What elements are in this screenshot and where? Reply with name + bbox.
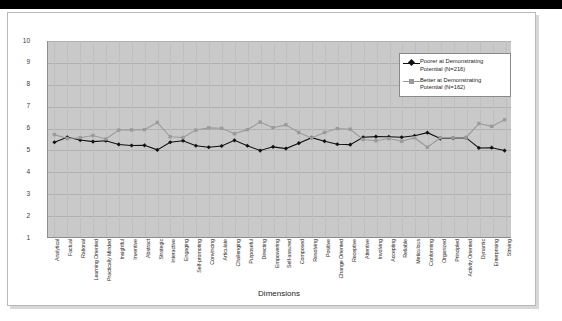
legend-label-poorer: Poorer at Demonstrating Potential (N=216… xyxy=(420,58,483,74)
data-point[interactable] xyxy=(271,145,275,149)
data-point[interactable] xyxy=(310,136,313,139)
x-tick-label-9: Interactive xyxy=(171,239,176,263)
data-point[interactable] xyxy=(232,138,236,142)
data-point[interactable] xyxy=(53,133,56,136)
data-point[interactable] xyxy=(78,136,81,139)
data-point[interactable] xyxy=(271,126,274,129)
y-tick-label-4: 4 xyxy=(8,169,30,176)
data-point[interactable] xyxy=(194,144,198,148)
x-tick-label-23: Receptive xyxy=(352,239,357,262)
screenshot-root: 12345678910 Poorer at Demonstrating xyxy=(0,0,562,321)
data-point[interactable] xyxy=(91,134,94,137)
data-point[interactable] xyxy=(142,143,146,147)
x-tick-label-5: Insightful xyxy=(120,239,125,260)
data-point[interactable] xyxy=(387,137,390,140)
x-tick-label-19: Composed xyxy=(300,239,305,264)
data-point[interactable] xyxy=(400,139,403,142)
y-tick-label-10: 10 xyxy=(8,38,30,45)
data-point[interactable] xyxy=(451,136,454,139)
data-point[interactable] xyxy=(490,146,494,150)
data-point[interactable] xyxy=(374,139,377,142)
legend-item-better[interactable]: Better at Demonstrating Potential (N=162… xyxy=(403,77,506,93)
x-tick-label-25: Involving xyxy=(378,239,383,259)
y-tick-label-6: 6 xyxy=(8,125,30,132)
data-point[interactable] xyxy=(297,141,301,145)
data-point[interactable] xyxy=(413,136,416,139)
x-tick-label-14: Challenging xyxy=(236,239,241,266)
data-point[interactable] xyxy=(259,120,262,123)
data-point[interactable] xyxy=(336,127,339,130)
data-point[interactable] xyxy=(130,128,133,131)
data-point[interactable] xyxy=(117,128,120,131)
data-point[interactable] xyxy=(477,122,480,125)
y-tick-label-7: 7 xyxy=(8,103,30,110)
data-point[interactable] xyxy=(439,136,442,139)
data-point[interactable] xyxy=(66,137,69,140)
data-point[interactable] xyxy=(181,136,184,139)
data-point[interactable] xyxy=(349,128,352,131)
data-point[interactable] xyxy=(143,128,146,131)
data-point[interactable] xyxy=(503,118,506,121)
data-point[interactable] xyxy=(52,140,56,144)
data-point[interactable] xyxy=(104,137,107,140)
data-point[interactable] xyxy=(245,144,249,148)
x-tick-label-30: Organized xyxy=(442,239,447,263)
legend-marker-diamond-icon xyxy=(403,59,420,67)
x-axis-title: Dimensions xyxy=(47,289,511,298)
data-point[interactable] xyxy=(284,146,288,150)
x-tick-label-10: Engaging xyxy=(184,239,189,261)
x-tick-label-6: Inventive xyxy=(133,239,138,260)
data-point[interactable] xyxy=(207,126,210,129)
chart-legend[interactable]: Poorer at Demonstrating Potential (N=216… xyxy=(399,53,511,97)
data-point[interactable] xyxy=(335,142,339,146)
x-tick-label-3: Learning Oriented xyxy=(94,239,99,280)
data-point[interactable] xyxy=(207,145,211,149)
y-tick-label-2: 2 xyxy=(8,213,30,220)
data-point[interactable] xyxy=(156,121,159,124)
x-tick-label-32: Activity Oriented xyxy=(468,239,473,277)
data-point[interactable] xyxy=(246,128,249,131)
data-point[interactable] xyxy=(400,135,404,139)
data-point[interactable] xyxy=(323,131,326,134)
x-tick-label-2: Rational xyxy=(81,239,86,258)
document-sheet: 12345678910 Poorer at Demonstrating xyxy=(7,12,536,306)
data-point[interactable] xyxy=(220,144,224,148)
sheet-shadow-right xyxy=(536,15,539,307)
data-point[interactable] xyxy=(374,135,378,139)
legend-marker-square-icon xyxy=(403,78,420,86)
x-tick-label-27: Reliable xyxy=(403,239,408,258)
data-point[interactable] xyxy=(220,127,223,130)
data-point[interactable] xyxy=(322,139,326,143)
data-point[interactable] xyxy=(168,135,171,138)
data-point[interactable] xyxy=(297,131,300,134)
x-axis-labels: AnalyticalFactualRationalLearning Orient… xyxy=(47,239,511,295)
x-tick-label-24: Attentive xyxy=(365,239,370,259)
data-point[interactable] xyxy=(91,140,95,144)
data-point[interactable] xyxy=(181,139,185,143)
data-point[interactable] xyxy=(426,146,429,149)
x-tick-label-28: Meticulous xyxy=(416,239,421,264)
top-black-band xyxy=(0,0,562,9)
data-point[interactable] xyxy=(194,128,197,131)
legend-item-poorer[interactable]: Poorer at Demonstrating Potential (N=216… xyxy=(403,58,506,74)
data-point[interactable] xyxy=(258,148,262,152)
x-tick-label-15: Purposeful xyxy=(249,239,254,264)
data-point[interactable] xyxy=(464,136,467,139)
data-point[interactable] xyxy=(490,125,493,128)
data-point[interactable] xyxy=(502,148,506,152)
x-tick-label-0: Analytical xyxy=(55,239,60,261)
x-tick-label-34: Enterprising xyxy=(494,239,499,267)
data-point[interactable] xyxy=(284,123,287,126)
series-line-1 xyxy=(54,120,504,147)
data-point[interactable] xyxy=(130,143,134,147)
x-tick-label-7: Abstract xyxy=(146,239,151,258)
y-tick-label-9: 9 xyxy=(8,59,30,66)
x-tick-label-18: Self-assured xyxy=(287,239,292,268)
x-tick-label-20: Resolving xyxy=(313,239,318,262)
data-point[interactable] xyxy=(425,131,429,135)
data-point[interactable] xyxy=(233,132,236,135)
x-tick-label-21: Positive xyxy=(326,239,331,257)
data-point[interactable] xyxy=(117,142,121,146)
data-point[interactable] xyxy=(361,138,364,141)
y-tick-label-5: 5 xyxy=(8,147,30,154)
